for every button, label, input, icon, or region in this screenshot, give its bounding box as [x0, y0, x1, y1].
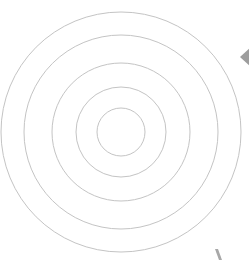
background [0, 0, 249, 260]
concentric-rings-figure [0, 0, 249, 260]
